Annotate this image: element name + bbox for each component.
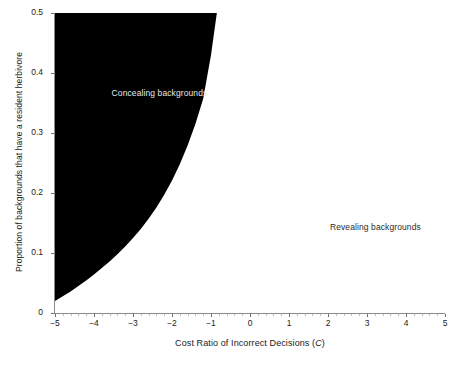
x-axis-minor-tick — [383, 314, 384, 316]
x-axis-tick — [94, 314, 95, 317]
y-axis-tick — [51, 253, 54, 254]
x-tick-label: −4 — [82, 318, 106, 328]
x-axis-minor-tick — [117, 314, 118, 316]
x-axis-title-paren-close: ) — [322, 338, 325, 348]
x-axis-tick — [55, 314, 56, 317]
y-axis-tick — [51, 13, 54, 14]
x-axis-minor-tick — [188, 314, 189, 316]
x-axis-minor-tick — [242, 314, 243, 316]
y-tick-label: 0.1 — [17, 247, 43, 257]
x-axis-minor-tick — [180, 314, 181, 316]
x-axis-minor-tick — [429, 314, 430, 316]
x-axis-tick — [289, 314, 290, 317]
revealing-backgrounds-label: Revealing backgrounds — [330, 222, 421, 232]
x-axis-minor-tick — [437, 314, 438, 316]
x-axis-minor-tick — [219, 314, 220, 316]
x-axis-minor-tick — [375, 314, 376, 316]
x-tick-label: 5 — [433, 318, 457, 328]
x-axis-minor-tick — [78, 314, 79, 316]
x-axis-minor-tick — [141, 314, 142, 316]
x-axis-minor-tick — [359, 314, 360, 316]
y-axis-tick — [51, 133, 54, 134]
x-tick-label: 1 — [277, 318, 301, 328]
x-tick-label: −2 — [160, 318, 184, 328]
plot-area: Concealing backgroundsRevealing backgrou… — [55, 13, 445, 313]
x-tick-label: 3 — [355, 318, 379, 328]
x-tick-label: −3 — [121, 318, 145, 328]
x-axis-minor-tick — [258, 314, 259, 316]
x-axis-tick — [133, 314, 134, 317]
x-tick-label: 2 — [316, 318, 340, 328]
x-axis-minor-tick — [398, 314, 399, 316]
x-axis-minor-tick — [422, 314, 423, 316]
x-axis-minor-tick — [297, 314, 298, 316]
y-tick-label: 0.3 — [17, 127, 43, 137]
x-axis-minor-tick — [305, 314, 306, 316]
y-axis-tick — [51, 73, 54, 74]
x-axis-minor-tick — [234, 314, 235, 316]
y-axis-tick — [51, 193, 54, 194]
x-axis-minor-tick — [281, 314, 282, 316]
x-axis-minor-tick — [414, 314, 415, 316]
chart-figure: Proportion of backgrounds that have a re… — [0, 0, 469, 367]
x-axis-tick — [211, 314, 212, 317]
x-axis-minor-tick — [320, 314, 321, 316]
x-axis-minor-tick — [273, 314, 274, 316]
y-tick-label: 0.5 — [17, 7, 43, 17]
x-axis-tick — [445, 314, 446, 317]
shaded-region-svg — [55, 13, 445, 313]
x-axis-minor-tick — [227, 314, 228, 316]
x-axis-minor-tick — [149, 314, 150, 316]
x-axis-minor-tick — [86, 314, 87, 316]
x-axis-title: Cost Ratio of Incorrect Decisions (C) — [55, 338, 445, 348]
x-axis-minor-tick — [344, 314, 345, 316]
x-axis-minor-tick — [125, 314, 126, 316]
x-axis-minor-tick — [71, 314, 72, 316]
x-axis-minor-tick — [156, 314, 157, 316]
x-axis-title-symbol: C — [315, 338, 322, 348]
x-axis-minor-tick — [312, 314, 313, 316]
x-axis-minor-tick — [266, 314, 267, 316]
y-tick-label: 0 — [17, 307, 43, 317]
x-axis-tick — [172, 314, 173, 317]
x-axis-minor-tick — [195, 314, 196, 316]
x-tick-label: 0 — [238, 318, 262, 328]
x-axis-tick — [250, 314, 251, 317]
x-axis-minor-tick — [351, 314, 352, 316]
x-axis-tick — [367, 314, 368, 317]
y-axis-tick — [51, 313, 54, 314]
x-axis-minor-tick — [203, 314, 204, 316]
x-axis-tick — [328, 314, 329, 317]
y-tick-label: 0.4 — [17, 67, 43, 77]
x-axis-minor-tick — [110, 314, 111, 316]
concealing-region-path — [55, 13, 217, 313]
x-axis-minor-tick — [390, 314, 391, 316]
y-axis-title: Proportion of backgrounds that have a re… — [12, 2, 26, 322]
x-axis-title-text: Cost Ratio of Incorrect Decisions ( — [175, 338, 315, 348]
x-axis-minor-tick — [63, 314, 64, 316]
x-tick-label: −5 — [43, 318, 67, 328]
x-tick-label: 4 — [394, 318, 418, 328]
x-axis-tick — [406, 314, 407, 317]
concealing-backgrounds-label: Concealing backgrounds — [112, 88, 208, 98]
x-axis-minor-tick — [164, 314, 165, 316]
x-tick-label: −1 — [199, 318, 223, 328]
x-axis-minor-tick — [102, 314, 103, 316]
x-axis-minor-tick — [336, 314, 337, 316]
y-tick-label: 0.2 — [17, 187, 43, 197]
